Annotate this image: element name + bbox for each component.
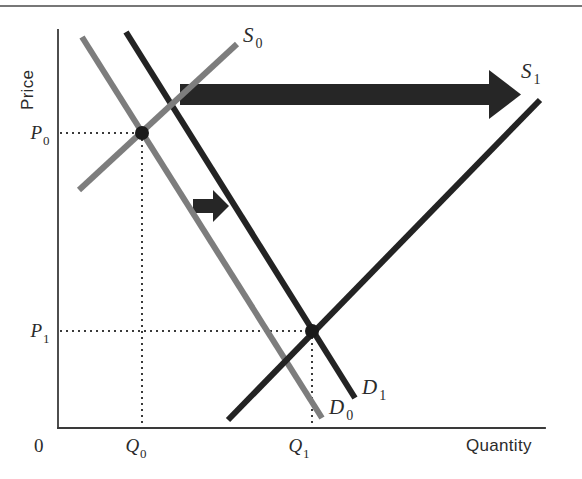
equilibrium-points-group <box>135 126 319 338</box>
price-tick-subscript: 0 <box>43 133 50 148</box>
equilibrium-initial <box>135 126 149 140</box>
demand-shift-arrow-shaft <box>193 199 213 213</box>
supply-shift-arrow-shaft <box>180 84 489 105</box>
curve-label-S0: S0 <box>243 23 263 51</box>
supply-shift-arrow-head <box>489 70 521 119</box>
curve-label-subscript: 1 <box>379 388 386 403</box>
equilibrium-final <box>305 324 319 338</box>
origin-label: 0 <box>34 435 44 456</box>
figure-canvas: D0D1S0S1 P0P1Q0Q1 Price Quantity 0 <box>0 0 582 479</box>
quantity-tick-Q1: Q1 <box>288 435 309 461</box>
guide-lines-group <box>60 133 312 428</box>
quantity-tick-main: Q <box>125 435 139 456</box>
curve-label-D1: D1 <box>361 375 386 403</box>
curve-label-main: S <box>521 59 532 83</box>
curve-supply-shifted <box>228 100 540 420</box>
price-tick-main: P <box>29 320 42 341</box>
x-axis-label: Quantity <box>466 436 532 455</box>
curve-label-S1: S1 <box>521 59 541 87</box>
curve-label-subscript: 0 <box>346 408 353 423</box>
curve-label-D0: D0 <box>328 395 353 423</box>
supply-shift-arrow <box>180 70 521 119</box>
curve-label-subscript: 0 <box>256 36 263 51</box>
curve-label-main: D <box>328 395 344 419</box>
price-tick-main: P <box>29 122 42 143</box>
price-tick-P0: P0 <box>29 122 49 148</box>
quantity-tick-subscript: 1 <box>303 446 310 461</box>
curve-label-main: S <box>243 23 254 47</box>
curve-label-subscript: 1 <box>534 72 541 87</box>
quantity-tick-Q0: Q0 <box>125 435 146 461</box>
supply-demand-figure: D0D1S0S1 P0P1Q0Q1 Price Quantity 0 <box>0 0 582 479</box>
price-tick-P1: P1 <box>29 320 49 346</box>
price-tick-subscript: 1 <box>43 331 50 346</box>
quantity-tick-subscript: 0 <box>140 446 147 461</box>
curve-label-main: D <box>361 375 377 399</box>
quantity-tick-main: Q <box>288 435 302 456</box>
y-axis-label: Price <box>18 70 37 110</box>
